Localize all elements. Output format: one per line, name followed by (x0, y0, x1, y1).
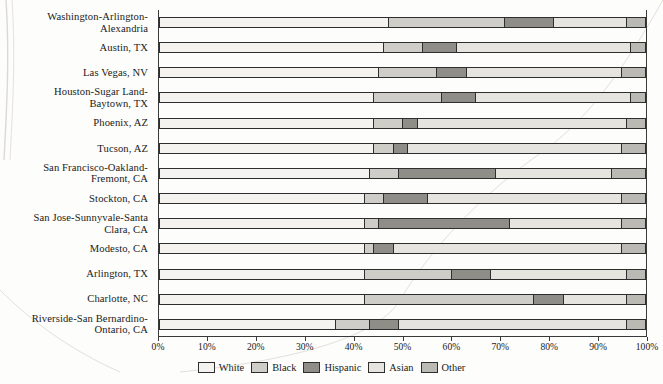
y-axis-label: Las Vegas, NV (0, 67, 148, 79)
bar-segment-white (160, 68, 378, 77)
bar-segment-asian (398, 320, 626, 329)
y-axis-label: Modesto, CA (0, 243, 148, 255)
bar-segment-black (369, 169, 398, 178)
bar-segment-other (611, 169, 645, 178)
bar-segment-asian (393, 244, 621, 253)
stacked-bar (159, 17, 646, 28)
y-axis-label: Arlington, TX (0, 268, 148, 280)
x-axis-ticks: 0%10%20%30%40%50%60%70%80%90%100% (158, 337, 647, 355)
y-axis-labels: Washington-Arlington-AlexandriaAustin, T… (0, 10, 154, 337)
bar-segment-hispanic (373, 244, 392, 253)
bar-segment-asian (417, 119, 626, 128)
bar-segment-hispanic (533, 295, 562, 304)
bar-segment-white (160, 144, 373, 153)
x-tick-label: 80% (540, 341, 558, 352)
legend-label: Black (272, 362, 296, 373)
bar-segment-other (626, 320, 645, 329)
y-axis-label: Riverside-San Bernardino-Ontario, CA (0, 313, 148, 336)
plot-area (158, 10, 647, 337)
bar-segment-asian (427, 194, 621, 203)
bar-segment-black (373, 144, 392, 153)
y-axis-label: Stockton, CA (0, 193, 148, 205)
bar-row (159, 60, 646, 85)
bar-segment-black (364, 194, 383, 203)
bar-segment-black (373, 93, 441, 102)
bar-segment-hispanic (422, 43, 456, 52)
bar-segment-hispanic (369, 320, 398, 329)
bar-segment-asian (509, 219, 621, 228)
y-axis-label: Houston-Sugar Land-Baytown, TX (0, 86, 148, 109)
bar-segment-other (630, 93, 645, 102)
x-tick-label: 100% (636, 341, 658, 352)
legend-swatch-hispanic (303, 362, 320, 373)
bar-segment-asian (466, 68, 621, 77)
legend-item-hispanic: Hispanic (303, 362, 361, 373)
bar-segment-asian (407, 144, 620, 153)
bar-segment-black (373, 119, 402, 128)
bar-segment-white (160, 18, 388, 27)
legend-swatch-white (198, 362, 215, 373)
bar-segment-asian (495, 169, 611, 178)
bar-segment-black (364, 270, 451, 279)
bar-segment-hispanic (441, 93, 475, 102)
bar-segment-hispanic (393, 144, 408, 153)
bar-row (159, 10, 646, 35)
bar-segment-other (626, 18, 645, 27)
bar-segment-black (364, 295, 534, 304)
legend-item-asian: Asian (368, 362, 413, 373)
stacked-bar (159, 168, 646, 179)
stacked-bar (159, 118, 646, 129)
bar-segment-other (621, 144, 645, 153)
bar-segment-hispanic (402, 119, 417, 128)
legend-label: Asian (389, 362, 413, 373)
y-axis-label: Tucson, AZ (0, 143, 148, 155)
bar-segment-white (160, 295, 364, 304)
bar-segment-white (160, 270, 364, 279)
bar-segment-white (160, 119, 373, 128)
stacked-bar-chart: Washington-Arlington-AlexandriaAustin, T… (0, 0, 663, 384)
bar-row (159, 136, 646, 161)
stacked-bar (159, 193, 646, 204)
x-tick-label: 40% (345, 341, 363, 352)
bar-segment-white (160, 43, 383, 52)
bar-row (159, 312, 646, 337)
y-axis-label: San Jose-Sunnyvale-SantaClara, CA (0, 212, 148, 235)
bar-row (159, 35, 646, 60)
x-tick-label: 30% (296, 341, 314, 352)
bar-segment-other (621, 219, 645, 228)
legend-item-other: Other (421, 362, 466, 373)
stacked-bar (159, 269, 646, 280)
bar-segment-asian (490, 270, 626, 279)
bar-segment-hispanic (383, 194, 427, 203)
bar-segment-black (335, 320, 369, 329)
bar-segment-white (160, 194, 364, 203)
bar-row (159, 287, 646, 312)
bar-segment-asian (456, 43, 631, 52)
x-tick-label: 10% (198, 341, 216, 352)
bar-segment-asian (475, 93, 630, 102)
bar-segment-black (383, 43, 422, 52)
y-axis-label: San Francisco-Oakland-Fremont, CA (0, 162, 148, 185)
x-tick-label: 70% (492, 341, 510, 352)
bar-segment-black (364, 244, 374, 253)
stacked-bar (159, 218, 646, 229)
bar-segment-white (160, 244, 364, 253)
bar-row (159, 236, 646, 261)
bar-segment-hispanic (436, 68, 465, 77)
legend-item-white: White (198, 362, 244, 373)
chart-legend: WhiteBlackHispanicAsianOther (0, 362, 663, 373)
bar-segment-white (160, 320, 335, 329)
legend-swatch-other (421, 362, 438, 373)
bar-segment-black (388, 18, 504, 27)
stacked-bar (159, 143, 646, 154)
y-axis-label: Charlotte, NC (0, 293, 148, 305)
bar-segment-other (621, 244, 645, 253)
x-tick-label: 60% (443, 341, 461, 352)
x-tick-label: 20% (247, 341, 265, 352)
x-tick-label: 0% (152, 341, 165, 352)
bar-segment-hispanic (398, 169, 495, 178)
bar-segment-other (621, 68, 645, 77)
bar-row (159, 85, 646, 110)
bar-segment-other (626, 295, 645, 304)
stacked-bar (159, 319, 646, 330)
